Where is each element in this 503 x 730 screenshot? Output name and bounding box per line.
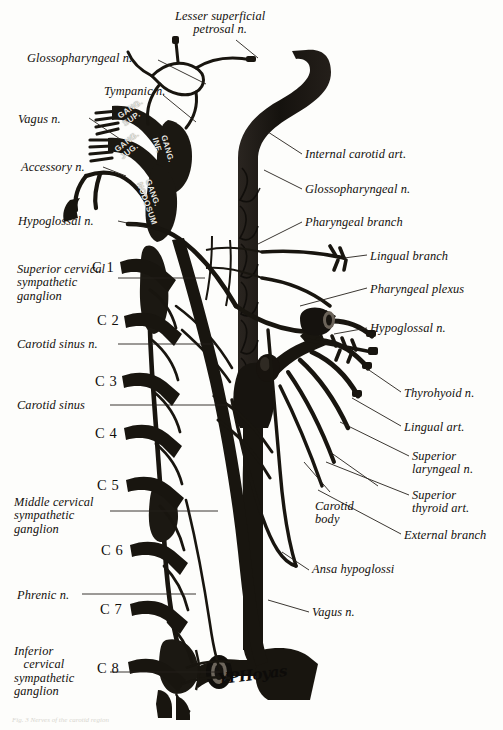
label-middle-cervical-sympathetic-ganglion: Middle cervical sympathetic ganglion: [14, 496, 94, 536]
label-hypoglossal-n-left: Hypoglossal n.: [18, 215, 94, 228]
label-thyrohyoid-n: Thyrohyoid n.: [404, 387, 474, 400]
label-glossopharyngeal-n: Glossopharyngeal n.: [27, 52, 132, 65]
pharyngeal-lingual-branches: [262, 246, 346, 306]
label-hypoglossal-n-right: Hypoglossal n.: [370, 322, 446, 335]
label-tympanic-n: Tympanic n.: [104, 85, 165, 98]
anatomy-illustration: [0, 0, 503, 730]
label-ansa-hypoglossi: Ansa hypoglossi: [312, 563, 394, 576]
label-vagus-n-lower: Vagus n.: [312, 606, 355, 619]
level-c2: C 2: [97, 312, 119, 329]
anatomical-plate: Glossopharyngeal n.Tympanic n.Vagus n.Ac…: [0, 0, 503, 730]
label-inferior-cervical-sympathetic-ganglion: Inferior cervical sympathetic ganglion: [14, 645, 74, 699]
label-superior-laryngeal-n: Superior laryngeal n.: [412, 450, 473, 477]
label-superior-thyroid-art: Superior thyroid art.: [412, 489, 469, 516]
label-pharyngeal-branch: Pharyngeal branch: [305, 216, 403, 229]
label-external-branch: External branch: [404, 529, 486, 542]
label-lesser-superficial-petrosal-n: Lesser superficial petrosal n.: [175, 10, 265, 37]
bottom-caption: Fig. 3 Nerves of the carotid region: [12, 716, 109, 724]
label-carotid-sinus-n: Carotid sinus n.: [17, 338, 98, 351]
level-c4: C 4: [95, 425, 117, 442]
label-lingual-branch: Lingual branch: [370, 250, 448, 263]
level-c1: C 1: [92, 259, 114, 276]
level-c3: C 3: [95, 373, 117, 390]
level-c5: C 5: [97, 477, 119, 494]
label-glossopharyngeal-n-right: Glossopharyngeal n.: [305, 183, 410, 196]
label-accessory-n: Accessory n.: [21, 161, 85, 174]
label-phrenic-n: Phrenic n.: [17, 589, 69, 602]
label-vagus-n-upper: Vagus n.: [18, 113, 61, 126]
external-carotid-branches: [280, 321, 372, 486]
level-c8: C 8: [97, 660, 119, 677]
label-carotid-body: Carotid body: [315, 500, 354, 527]
label-pharyngeal-plexus: Pharyngeal plexus: [370, 283, 464, 296]
label-internal-carotid-art: Internal carotid art.: [305, 148, 406, 161]
label-carotid-sinus: Carotid sinus: [17, 399, 85, 412]
level-c6: C 6: [101, 542, 123, 559]
level-c7: C 7: [100, 601, 122, 618]
label-lingual-art: Lingual art.: [404, 421, 464, 434]
